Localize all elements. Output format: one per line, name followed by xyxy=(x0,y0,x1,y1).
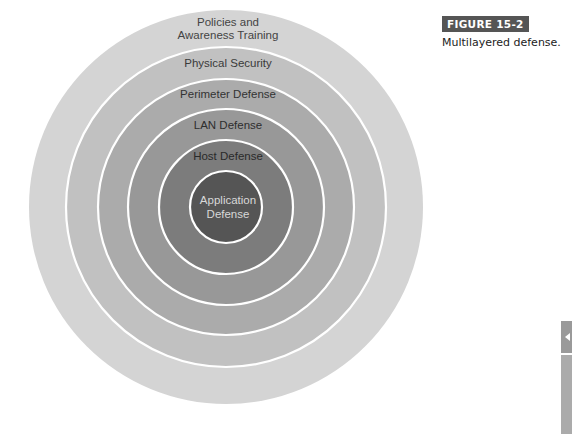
layer-label-2: Perimeter Defense xyxy=(180,88,276,100)
layer-label-5: ApplicationDefense xyxy=(200,194,256,220)
layer-label-4: Host Defense xyxy=(193,150,263,162)
figure-caption-block: FIGURE 15-2 Multilayered defense. xyxy=(442,13,561,49)
layer-label-1: Physical Security xyxy=(184,57,272,69)
multilayered-defense-diagram: Policies andAwareness TrainingPhysical S… xyxy=(0,0,572,434)
side-tab-button[interactable] xyxy=(561,321,572,353)
side-tab-panel[interactable] xyxy=(561,355,572,434)
chevron-left-icon xyxy=(565,333,570,341)
figure-number-badge: FIGURE 15-2 xyxy=(442,16,529,32)
layer-label-3: LAN Defense xyxy=(194,119,262,131)
figure-caption: Multilayered defense. xyxy=(442,36,561,49)
